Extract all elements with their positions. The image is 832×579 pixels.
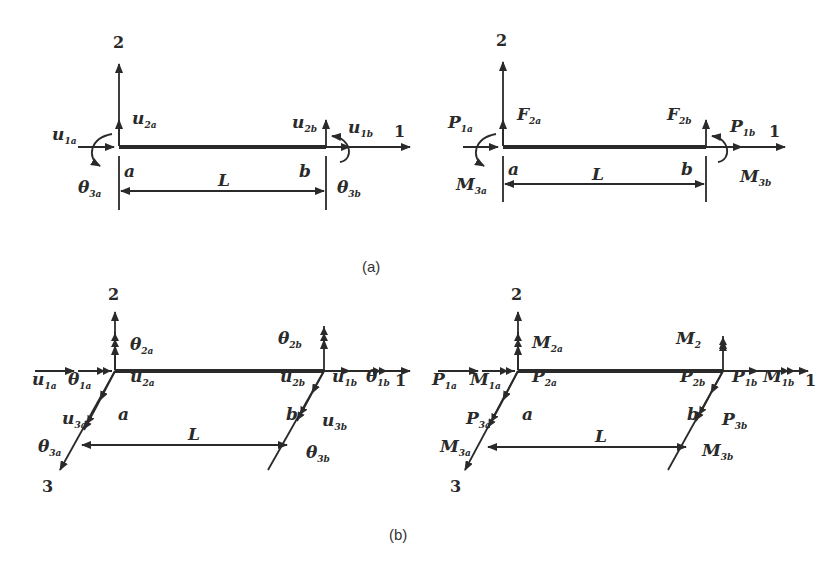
u3a-arrow xyxy=(100,371,115,400)
label-u2b: u2b xyxy=(292,112,317,134)
label-M1b: M1b xyxy=(762,366,794,388)
caption-b: (b) xyxy=(389,526,407,543)
label-P1b: P1b xyxy=(731,366,757,388)
panel-a-right-forces: 2 1 a b L P1a F2a M3a F2b P1b M3b xyxy=(447,31,785,202)
theta3b-rotation-arrow xyxy=(332,136,349,162)
axis-2-label: 2 xyxy=(113,33,124,52)
label-theta1b: θ1b xyxy=(366,366,390,388)
label-M3a: M3a xyxy=(455,174,487,196)
axis-1-label: 1 xyxy=(395,371,406,390)
node-a-label: a xyxy=(522,404,533,424)
axis-2-label: 2 xyxy=(108,285,119,304)
label-M3a: M3a xyxy=(439,436,471,458)
length-label: L xyxy=(591,164,604,184)
node-b-label: b xyxy=(681,159,693,179)
label-theta3b: θ3b xyxy=(306,442,330,464)
label-u1a: u1a xyxy=(52,124,77,146)
label-theta3a: θ3a xyxy=(78,177,102,199)
label-theta2b: θ2b xyxy=(278,328,302,350)
node-b-label: b xyxy=(286,404,298,424)
theta3b-arrow xyxy=(297,393,312,421)
theta3a-rotation-arrow xyxy=(92,134,112,166)
label-theta3b: θ3b xyxy=(337,177,361,199)
panel-b-left-displacements: 2 1 3 a b L u1a θ1a θ2a u2a u3a θ3a θ2b … xyxy=(32,285,410,496)
label-u3b: u3b xyxy=(322,410,347,432)
node-b-label: b xyxy=(299,161,311,181)
node-b-label: b xyxy=(687,404,699,424)
length-label: L xyxy=(594,426,607,446)
label-u1b: u1b xyxy=(348,117,373,139)
diagram-canvas: 2 1 a b L u1a u2a θ3a u2b u1b θ3b 2 1 a … xyxy=(0,0,832,579)
label-theta2a: θ2a xyxy=(130,334,154,356)
panel-b-right-forces: 2 1 3 a b L P1a M1a M2a P2a P3a M3a M2 P… xyxy=(431,285,816,496)
label-u2a: u2a xyxy=(132,108,157,130)
label-theta3a: θ3a xyxy=(38,436,62,458)
label-P3b: P3b xyxy=(721,409,747,431)
axis-1-label: 1 xyxy=(769,122,780,141)
node-a-label: a xyxy=(508,159,519,179)
caption-a: (a) xyxy=(362,258,380,275)
label-P1a: P1a xyxy=(447,112,473,134)
axis-2-label: 2 xyxy=(496,31,507,50)
label-theta1a: θ1a xyxy=(68,369,92,391)
label-F2b: F2b xyxy=(666,104,692,126)
beam-element-figure: 2 1 a b L u1a u2a θ3a u2b u1b θ3b 2 1 a … xyxy=(0,0,832,579)
label-u3a: u3a xyxy=(62,408,87,430)
label-P3a: P3a xyxy=(465,408,491,430)
axis-1-label: 1 xyxy=(805,371,816,390)
P3a-arrow xyxy=(503,371,518,400)
label-u1a: u1a xyxy=(32,369,57,391)
axis-2-label: 2 xyxy=(511,285,522,304)
label-M3b: M3b xyxy=(701,440,733,462)
label-M2b: M2 xyxy=(675,328,701,350)
node-a-label: a xyxy=(118,404,129,424)
axis-3-label: 3 xyxy=(42,477,53,496)
axis-1-label: 1 xyxy=(394,122,405,141)
M3a-moment-arrow xyxy=(476,134,496,166)
label-u1b: u1b xyxy=(332,366,357,388)
P3b-arrow xyxy=(711,371,723,393)
label-M3b: M3b xyxy=(739,166,771,188)
M3b-moment-arrow xyxy=(712,136,727,162)
label-M1a: M1a xyxy=(469,369,501,391)
axis-3-label: 3 xyxy=(450,477,461,496)
label-F2a: F2a xyxy=(516,104,541,126)
length-label: L xyxy=(217,170,230,190)
panel-a-left-displacements: 2 1 a b L u1a u2a θ3a u2b u1b θ3b xyxy=(52,33,410,210)
label-P1b: P1b xyxy=(729,116,755,138)
label-P1a: P1a xyxy=(431,369,457,391)
u3b-arrow xyxy=(312,371,324,393)
label-M2a: M2a xyxy=(531,332,563,354)
length-label: L xyxy=(187,424,200,444)
node-a-label: a xyxy=(124,161,135,181)
